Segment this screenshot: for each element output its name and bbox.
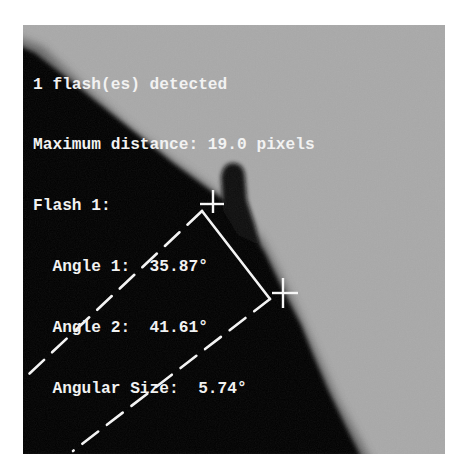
flash-header-label: Flash 1: — [33, 196, 315, 216]
solar-image-frame: 1 flash(es) detected Maximum distance: 1… — [23, 25, 445, 454]
angular-size-label: Angular Size: 5.74° — [33, 379, 315, 399]
flash-count-label: 1 flash(es) detected — [33, 75, 315, 95]
angle-2-label: Angle 2: 41.61° — [33, 318, 315, 338]
detection-annotation: 1 flash(es) detected Maximum distance: 1… — [33, 34, 315, 440]
max-distance-label: Maximum distance: 19.0 pixels — [33, 135, 315, 155]
angle-1-label: Angle 1: 35.87° — [33, 257, 315, 277]
